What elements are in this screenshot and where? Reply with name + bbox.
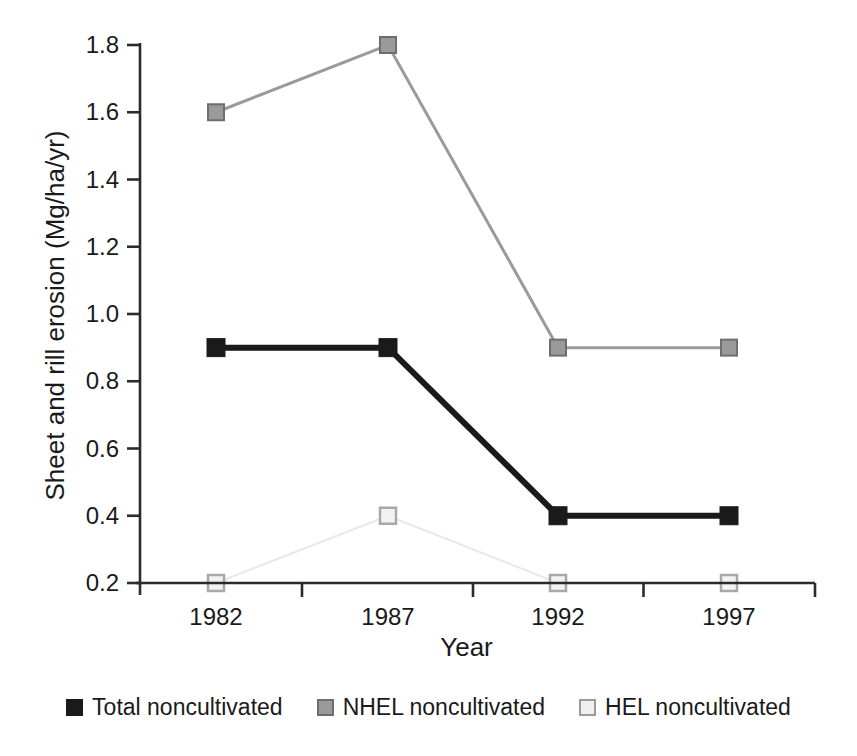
x-tick-label: 1992 xyxy=(498,605,618,629)
legend-item[interactable]: HEL noncultivated xyxy=(579,696,791,719)
x-tick-label: 1997 xyxy=(669,605,789,629)
data-point-marker xyxy=(720,507,738,525)
legend-label: Total noncultivated xyxy=(92,696,283,719)
y-tick-label: 0.2 xyxy=(29,571,119,595)
x-axis-title: Year xyxy=(0,632,857,663)
x-tick-label: 1987 xyxy=(328,605,448,629)
y-tick-label: 0.4 xyxy=(29,504,119,528)
series-1 xyxy=(208,37,737,356)
series-line xyxy=(216,45,729,348)
x-ticks xyxy=(302,583,644,597)
y-tick-label: 1.4 xyxy=(29,168,119,192)
legend-item[interactable]: Total noncultivated xyxy=(66,696,283,719)
data-point-marker xyxy=(208,104,224,120)
data-point-marker xyxy=(380,508,396,524)
y-tick-label: 1.0 xyxy=(29,302,119,326)
legend-swatch-icon xyxy=(579,699,596,716)
x-tick-label: 1982 xyxy=(156,605,276,629)
plot-area xyxy=(0,0,857,700)
y-tick-label: 1.6 xyxy=(29,100,119,124)
y-ticks xyxy=(127,45,140,583)
series-line xyxy=(216,516,729,583)
data-point-marker xyxy=(721,340,737,356)
series-0 xyxy=(207,339,738,525)
legend-swatch-icon xyxy=(317,699,334,716)
y-tick-label: 1.8 xyxy=(29,33,119,57)
y-tick-label: 1.2 xyxy=(29,235,119,259)
series-line xyxy=(216,348,729,516)
y-tick-label: 0.6 xyxy=(29,437,119,461)
data-point-marker xyxy=(550,340,566,356)
erosion-line-chart: Sheet and rill erosion (Mg/ha/yr) Year 1… xyxy=(0,0,857,756)
y-tick-label: 0.8 xyxy=(29,369,119,393)
data-point-marker xyxy=(379,339,397,357)
legend-item[interactable]: NHEL noncultivated xyxy=(317,696,545,719)
series-2 xyxy=(208,508,737,591)
data-point-marker xyxy=(207,339,225,357)
x-axis-title-text: Year xyxy=(440,632,493,662)
legend-label: NHEL noncultivated xyxy=(343,696,545,719)
legend-swatch-icon xyxy=(66,699,83,716)
chart-legend: Total noncultivatedNHEL noncultivatedHEL… xyxy=(0,696,857,719)
data-point-marker xyxy=(549,507,567,525)
data-point-marker xyxy=(380,37,396,53)
legend-label: HEL noncultivated xyxy=(605,696,791,719)
